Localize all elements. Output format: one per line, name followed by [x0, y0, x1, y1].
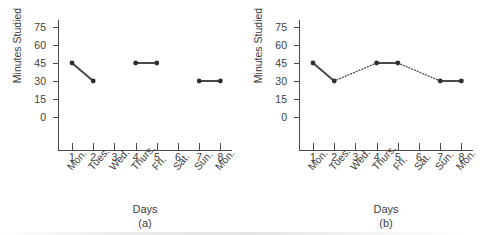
y-tick-mark — [53, 27, 59, 28]
data-point-marker — [374, 61, 379, 66]
panel-caption-a: (a) — [58, 217, 232, 229]
x-tick-mark — [377, 143, 378, 150]
data-point-marker — [332, 79, 337, 84]
y-tick-label: 30 — [16, 76, 46, 87]
x-tick-mark — [199, 143, 200, 150]
x-tick-mark — [72, 143, 73, 150]
y-tick-mark — [294, 99, 300, 100]
series-segment-dotted — [334, 63, 376, 81]
panel-caption-b: (b) — [299, 217, 473, 229]
x-tick-mark — [157, 143, 158, 150]
series-segment-solid — [313, 63, 334, 81]
x-tick-mark — [334, 143, 335, 150]
data-point-marker — [459, 79, 464, 84]
data-point-marker — [395, 61, 400, 66]
x-axis-title-b: Days — [299, 203, 473, 215]
y-tick-mark — [294, 27, 300, 28]
scan-artifact — [0, 232, 482, 235]
x-tick-mark — [355, 143, 356, 150]
x-tick-mark — [398, 143, 399, 150]
y-tick-label: 45 — [16, 58, 46, 69]
chart-panel-a: Minutes Studied 01530456075 12345678 Mon… — [0, 0, 241, 235]
y-tick-label: 60 — [257, 40, 287, 51]
y-tick-mark — [294, 81, 300, 82]
x-tick-mark — [461, 143, 462, 150]
x-axis-title-a: Days — [58, 203, 232, 215]
y-tick-label: 60 — [16, 40, 46, 51]
x-tick-mark — [419, 143, 420, 150]
two-panel-line-chart-figure: Minutes Studied 01530456075 12345678 Mon… — [0, 0, 482, 235]
y-tick-mark — [294, 63, 300, 64]
data-point-marker — [91, 79, 96, 84]
data-point-marker — [133, 61, 138, 66]
y-tick-label: 0 — [257, 112, 287, 123]
y-tick-label: 15 — [257, 94, 287, 105]
y-tick-label: 30 — [257, 76, 287, 87]
y-tick-mark — [294, 117, 300, 118]
data-point-marker — [197, 79, 202, 84]
x-tick-mark — [220, 143, 221, 150]
x-tick-mark — [136, 143, 137, 150]
data-point-marker — [154, 61, 159, 66]
y-tick-mark — [53, 99, 59, 100]
x-tick-mark — [93, 143, 94, 150]
x-tick-mark — [114, 143, 115, 150]
y-tick-label: 75 — [16, 22, 46, 33]
y-tick-mark — [53, 117, 59, 118]
data-point-marker — [70, 61, 75, 66]
chart-panel-b: Minutes Studied 01530456075 12345678 Mon… — [241, 0, 482, 235]
y-tick-label: 15 — [16, 94, 46, 105]
data-point-marker — [311, 61, 316, 66]
data-point-marker — [218, 79, 223, 84]
y-axis-line-b — [299, 20, 300, 150]
x-tick-mark — [440, 143, 441, 150]
series-segment-dotted — [398, 63, 440, 81]
x-tick-mark — [313, 143, 314, 150]
data-point-marker — [438, 79, 443, 84]
y-tick-mark — [53, 45, 59, 46]
y-tick-label: 75 — [257, 22, 287, 33]
y-tick-mark — [53, 81, 59, 82]
y-tick-label: 45 — [257, 58, 287, 69]
y-tick-label: 0 — [16, 112, 46, 123]
x-tick-mark — [178, 143, 179, 150]
y-tick-mark — [53, 63, 59, 64]
y-axis-line-a — [58, 20, 59, 150]
series-segment-solid — [72, 63, 93, 81]
y-tick-mark — [294, 45, 300, 46]
